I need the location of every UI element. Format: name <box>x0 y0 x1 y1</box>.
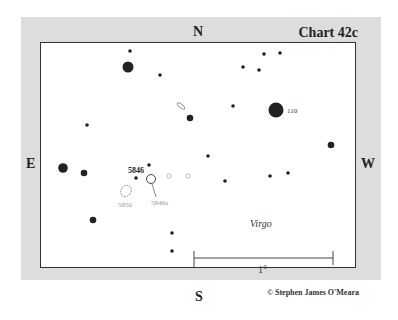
star <box>257 68 261 72</box>
galaxy <box>186 174 190 178</box>
star <box>206 154 210 158</box>
galaxy-ngc5850 <box>118 183 133 199</box>
star <box>158 73 162 77</box>
galaxy-ngc5846 <box>147 175 156 184</box>
star <box>328 142 335 149</box>
star <box>286 171 290 175</box>
star <box>147 163 151 167</box>
star <box>262 52 266 56</box>
star <box>241 65 245 69</box>
star <box>278 51 282 55</box>
ngc5846a-pointer <box>152 184 156 197</box>
galaxy-ngc5838 <box>176 102 185 111</box>
star <box>231 104 235 108</box>
ngc5846a-label: 5846a <box>151 199 168 207</box>
galaxy <box>167 174 171 178</box>
star <box>90 217 97 224</box>
star <box>268 174 272 178</box>
star-110-label-text: 110 <box>287 107 297 115</box>
ngc5850-label: 5850 <box>118 201 132 209</box>
star <box>81 170 88 177</box>
star <box>134 176 138 180</box>
star <box>58 163 68 173</box>
star <box>128 49 132 53</box>
star <box>187 115 194 122</box>
scale-label: 1° <box>258 264 267 275</box>
star <box>85 123 89 127</box>
star <box>170 249 174 253</box>
star <box>123 62 134 73</box>
star <box>170 231 174 235</box>
ngc5846-label: 5846 <box>128 166 144 175</box>
star-110 <box>269 103 284 118</box>
constellation-label: Virgo <box>250 218 272 229</box>
star-map <box>0 0 398 320</box>
star <box>223 179 227 183</box>
